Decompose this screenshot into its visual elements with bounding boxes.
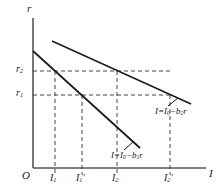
x-tick-I2-prime: I2′ bbox=[164, 173, 173, 184]
x-tick-I1-prime: I1′ bbox=[76, 173, 85, 184]
curve-label-b2: I=I0−b2r bbox=[155, 107, 187, 117]
investment-demand-curve-figure: r I O r2 r1 I1 I1′ I2 I2′ I=I0−b2r I=I0−… bbox=[0, 0, 222, 196]
origin-label: O bbox=[22, 170, 30, 181]
y-tick-r2: r2 bbox=[16, 64, 23, 75]
x-tick-I1: I1 bbox=[50, 173, 56, 184]
curve-steep-b1 bbox=[33, 51, 140, 148]
curve-label-b1: I=I0−b1r bbox=[111, 151, 143, 161]
curve-flat-b2 bbox=[52, 41, 191, 104]
x-tick-I2: I2 bbox=[112, 173, 118, 184]
y-tick-r1: r1 bbox=[16, 88, 23, 99]
x-axis-label: I bbox=[209, 168, 213, 179]
chart-canvas bbox=[0, 0, 222, 196]
leader-line-b1 bbox=[124, 142, 133, 150]
y-axis-label: r bbox=[27, 3, 31, 14]
